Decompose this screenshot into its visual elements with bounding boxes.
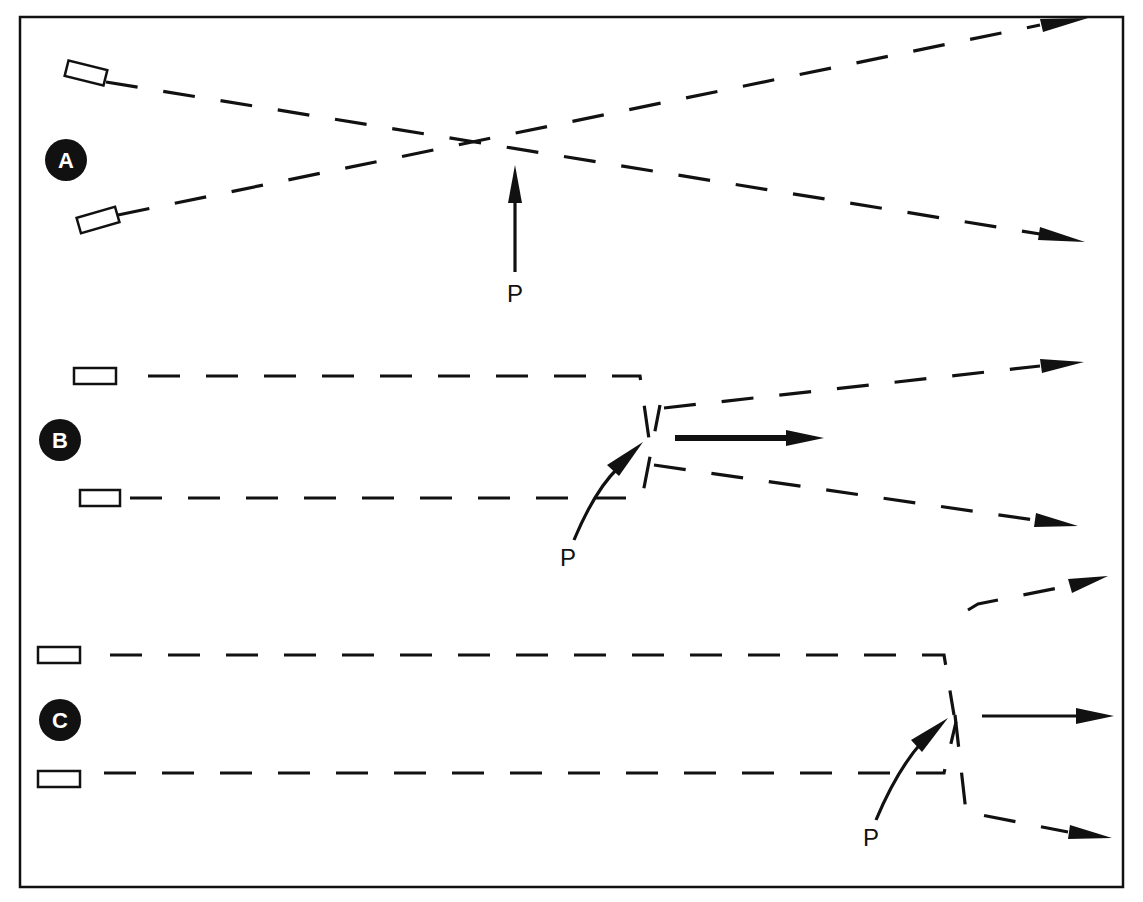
panel-label-b: B [52,428,68,453]
point-label-c: P [863,824,879,851]
panel-label-c: C [52,708,68,733]
light-source-icon [80,490,120,506]
pointer-line [574,468,618,540]
arrowhead-icon [786,430,824,446]
arrowhead-icon [1076,708,1114,724]
point-label-b: P [560,544,576,571]
arrowhead-icon [1068,825,1112,839]
beam-line [104,722,956,773]
arrowhead-icon [1040,359,1084,373]
light-source-icon [74,368,116,384]
panel-a: A P [45,18,1088,307]
beam-line [955,715,1068,832]
light-source-icon [38,771,80,787]
beam-line [118,25,1040,215]
panel-label-a: A [58,148,74,173]
beam-line [106,82,1040,234]
diagram-frame [20,17,1123,887]
point-label-a: P [507,280,523,307]
beam-line [110,655,954,715]
arrowhead-icon [1068,576,1108,593]
light-source-icon [77,207,120,233]
beam-line [130,405,660,498]
light-source-icon [38,647,80,663]
arrowhead-icon [1040,18,1088,32]
beam-line [148,376,652,460]
arrowhead-icon [1034,513,1078,527]
panel-b: B P [39,359,1084,571]
beam-line [664,366,1040,408]
diagram-canvas: A P B P C P [0,0,1143,902]
arrowhead-icon [607,442,643,476]
arrowhead-icon [508,165,522,203]
beam-line [968,586,1068,610]
light-source-icon [65,60,108,85]
panel-c: C P [38,576,1114,851]
arrowhead-icon [1038,227,1085,242]
pointer-line [876,742,922,820]
beam-line [654,465,1034,520]
